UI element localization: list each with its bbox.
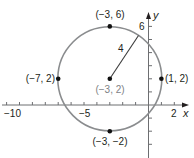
coordinate-plane: −10 −5 2 x 6 y 4 (−3, [0, 0, 194, 158]
y-axis-label: y [152, 9, 160, 21]
point-label-top: (−3, 6) [95, 9, 124, 20]
x-tick-label-2: 2 [171, 108, 177, 119]
y-axis: 6 y [139, 9, 160, 158]
x-axis: −10 −5 2 x [2, 102, 189, 119]
point-center [108, 77, 113, 82]
point-label-right: (1, 2) [165, 73, 188, 84]
point-left [56, 77, 61, 82]
y-tick-label-6: 6 [139, 21, 145, 32]
x-axis-label: x [182, 107, 189, 119]
radius-label: 4 [118, 43, 124, 54]
point-right [159, 77, 164, 82]
point-bottom [108, 129, 113, 134]
point-label-left: (−7, 2) [26, 73, 55, 84]
point-label-center: (−3, 2) [95, 84, 124, 95]
point-top [108, 24, 113, 29]
points [56, 24, 164, 133]
point-label-bottom: (−3, −2) [92, 136, 127, 147]
radius-segment [110, 36, 139, 79]
x-tick-label-neg5: −5 [79, 108, 91, 119]
x-tick-label-neg10: −10 [4, 108, 21, 119]
circle-diagram: −10 −5 2 x 6 y 4 (−3, [0, 0, 194, 158]
